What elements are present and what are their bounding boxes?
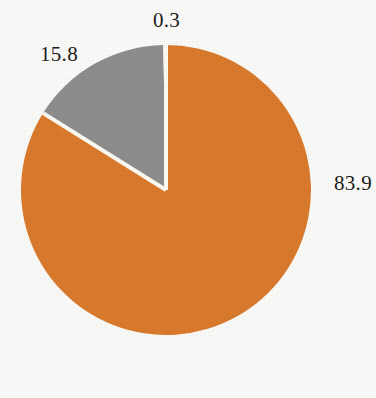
pie-label-15-8: 15.8	[40, 44, 78, 65]
pie-label-0-3: 0.3	[153, 10, 180, 31]
pie-chart-page: 0.3 15.8 83.9	[0, 0, 376, 398]
pie-label-83-9: 83.9	[334, 173, 372, 194]
